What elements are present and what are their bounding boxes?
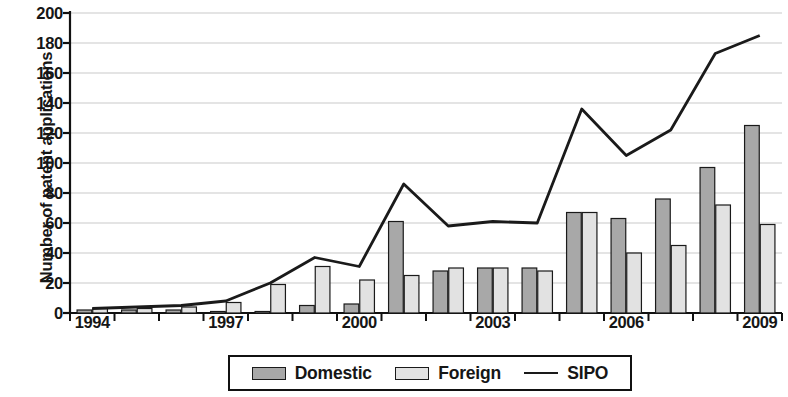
bar-foreign-2009 (760, 225, 775, 314)
legend-label-foreign: Foreign (438, 363, 501, 384)
bar-domestic-2006 (611, 219, 626, 314)
bar-domestic-2003 (478, 268, 493, 313)
x-axis-tick-label: 2000 (329, 314, 389, 331)
gridlines (71, 13, 782, 283)
patent-applications-chart: Number of patent applications 2001801601… (0, 0, 788, 397)
bar-foreign-1995 (137, 309, 152, 314)
bar-domestic-2000 (344, 304, 359, 313)
domestic-swatch-icon (252, 367, 286, 380)
bar-foreign-2008 (716, 205, 731, 313)
bar-foreign-2002 (449, 268, 464, 313)
x-axis-tick-label: 1994 (62, 314, 122, 331)
bar-foreign-1999 (315, 267, 330, 314)
bar-domestic-2007 (656, 199, 671, 313)
bar-domestic-2008 (700, 168, 715, 314)
bar-domestic-1995 (122, 310, 137, 313)
sipo-line-swatch-icon (524, 372, 558, 374)
bar-domestic-1999 (300, 306, 315, 314)
legend-item-sipo: SIPO (524, 363, 608, 384)
bar-domestic-1998 (255, 312, 270, 314)
bar-foreign-1998 (271, 285, 286, 314)
bar-domestic-1996 (166, 310, 181, 313)
bar-foreign-1996 (182, 307, 197, 313)
x-axis-ticks (70, 313, 782, 321)
bar-foreign-2006 (627, 253, 642, 313)
legend-label-sipo: SIPO (567, 363, 608, 384)
legend-label-domestic: Domestic (295, 363, 372, 384)
bar-foreign-2001 (404, 276, 419, 314)
bar-domestic-2009 (745, 126, 760, 314)
bar-foreign-2000 (360, 280, 375, 313)
bar-foreign-1997 (226, 303, 241, 314)
x-axis-tick-label: 1997 (196, 314, 256, 331)
plot-area (0, 0, 788, 397)
foreign-swatch-icon (395, 367, 429, 380)
bar-foreign-2004 (538, 271, 553, 313)
bar-foreign-2007 (671, 246, 686, 314)
bar-domestic-2001 (389, 222, 404, 314)
legend-item-foreign: Foreign (395, 363, 501, 384)
x-axis-tick-label: 2003 (463, 314, 523, 331)
bar-domestic-2002 (433, 271, 448, 313)
x-axis-tick-label: 2009 (730, 314, 788, 331)
x-axis-tick-label: 2006 (596, 314, 656, 331)
bar-foreign-2005 (582, 213, 597, 314)
legend-item-domestic: Domestic (252, 363, 372, 384)
bar-domestic-2005 (567, 213, 582, 314)
bar-foreign-2003 (493, 268, 508, 313)
bar-domestic-2004 (522, 268, 537, 313)
chart-legend: Domestic Foreign SIPO (228, 355, 632, 391)
